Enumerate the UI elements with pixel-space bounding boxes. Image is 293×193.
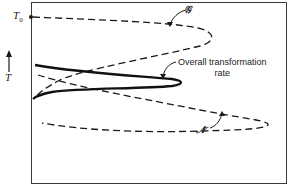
n-arrowhead-icon bbox=[219, 111, 225, 116]
diagram-curves bbox=[0, 0, 293, 193]
up-arrow-icon bbox=[6, 50, 12, 57]
overall-rate-label: Overall transformation rate bbox=[178, 57, 267, 79]
growth-curve-label: 𝒢 bbox=[184, 4, 191, 15]
t0-point-marker bbox=[29, 15, 33, 19]
t0-label: T0 bbox=[13, 10, 23, 26]
y-axis-label: T bbox=[5, 72, 11, 83]
n-pointer-arrow bbox=[210, 114, 222, 128]
nucleation-curve-label: 𝒩̇ bbox=[196, 124, 206, 135]
nucleation-rate-curve bbox=[38, 75, 268, 132]
overall-rate-label-line2: rate bbox=[178, 68, 267, 79]
overall-rate-label-line1: Overall transformation bbox=[178, 57, 267, 68]
